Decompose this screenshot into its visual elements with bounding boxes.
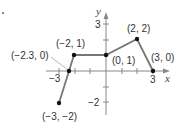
point — [72, 53, 76, 57]
y-axis-arrow-icon — [104, 12, 109, 19]
point-label: (2, 2) — [127, 23, 150, 34]
point — [104, 53, 108, 57]
y-tick-label: 3 — [95, 19, 101, 30]
point-label: (−2, 1) — [56, 38, 85, 49]
point-label: (−2.3, 0) — [11, 50, 49, 61]
y-tick-label: −2 — [88, 97, 100, 108]
function-graph: y x −3 3 3 −2 (−3, −2) (−2.3, 0) (−2, 1)… — [0, 0, 180, 132]
x-tick-label: −3 — [49, 73, 61, 84]
point — [67, 69, 71, 73]
point-label: (−3, −2) — [42, 111, 77, 122]
x-axis-label: x — [164, 72, 170, 84]
point-label: (0, 1) — [112, 55, 135, 66]
point — [135, 37, 139, 41]
corner-mark — [2, 12, 4, 14]
point — [151, 69, 155, 73]
point-label: (3, 0) — [151, 52, 174, 63]
point — [57, 101, 61, 105]
x-tick-label: 3 — [150, 74, 156, 85]
y-axis-label: y — [95, 5, 101, 17]
